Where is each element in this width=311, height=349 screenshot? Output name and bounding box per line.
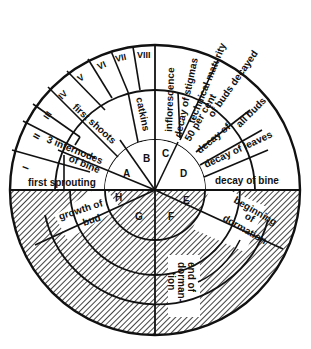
label-catkins: catkins	[134, 96, 152, 132]
phenology-diagram: I II III IV V VI VII VIII A B C D E F G …	[0, 0, 311, 349]
sector-C: C	[162, 148, 169, 159]
label-decay-of-bine: decay of bine	[215, 175, 279, 186]
stage-VII: VII	[114, 52, 127, 64]
sector-D: D	[180, 168, 187, 179]
label-first-sprouting: first sprouting	[28, 177, 96, 188]
stage-I: I	[20, 165, 30, 171]
sector-E: E	[183, 195, 190, 206]
stage-VI: VI	[96, 59, 108, 72]
sector-G: G	[135, 211, 143, 222]
sector-H: H	[115, 192, 122, 203]
sector-B: B	[143, 153, 150, 164]
sector-A: A	[123, 168, 130, 179]
stage-VIII: VIII	[137, 50, 151, 60]
label-tion: tion	[166, 272, 177, 290]
stage-IV: IV	[56, 88, 69, 101]
sector-F: F	[168, 211, 174, 222]
label-all-buds: all buds	[234, 95, 269, 130]
stage-II: II	[31, 132, 42, 141]
stage-III: III	[41, 109, 54, 121]
